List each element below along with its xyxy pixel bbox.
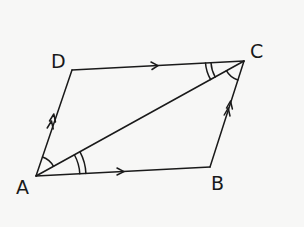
angle-arc-a-dac-icon [43, 157, 54, 166]
angle-arc-a-cab-outer-icon [80, 152, 86, 174]
angle-arc-c-acb-icon [226, 71, 237, 80]
angle-arc-c-dca-inner-icon [211, 63, 215, 77]
vertex-label-b: B [211, 174, 224, 193]
angle-arc-a-cab-inner-icon [75, 155, 80, 174]
parallelogram-diagram [0, 0, 304, 227]
angle-arc-c-dca-outer-icon [206, 63, 211, 80]
vertex-label-d: D [51, 52, 66, 71]
side-da [36, 70, 72, 176]
double-arrow-bc-icon [224, 101, 232, 116]
vertex-label-a: A [16, 178, 29, 197]
vertex-label-c: C [250, 42, 263, 61]
